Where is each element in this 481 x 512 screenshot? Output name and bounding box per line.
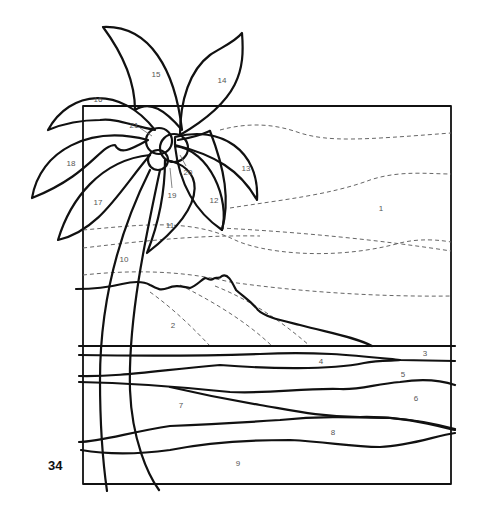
pattern-drawing	[0, 0, 481, 512]
piece-label-6: 6	[414, 394, 418, 403]
mountain-outline	[76, 275, 372, 346]
piece-label-2: 2	[171, 321, 175, 330]
piece-label-21: 21	[130, 121, 139, 130]
piece-label-5: 5	[401, 370, 405, 379]
piece-label-18: 18	[67, 159, 76, 168]
pattern-canvas: 123456789101112131415161718192021 34	[0, 0, 481, 512]
piece-label-19: 19	[168, 191, 177, 200]
piece-label-17: 17	[94, 198, 103, 207]
page-number: 34	[48, 458, 62, 473]
sea-line-3	[79, 380, 455, 392]
frond-18	[32, 136, 148, 198]
piece-label-14: 14	[218, 76, 227, 85]
piece-label-13: 13	[242, 164, 251, 173]
frond-14	[180, 33, 243, 135]
frame-border	[83, 106, 451, 484]
piece-label-1: 1	[379, 204, 383, 213]
piece-label-12: 12	[210, 196, 219, 205]
frond-15	[103, 27, 182, 130]
sea-line-2	[79, 360, 400, 376]
piece-label-16: 16	[94, 95, 103, 104]
piece-label-15: 15	[152, 70, 161, 79]
palm-trunk-right	[130, 170, 160, 490]
piece-label-7: 7	[179, 401, 183, 410]
sky-dashed-lines	[83, 125, 451, 346]
piece-label-9: 9	[236, 459, 240, 468]
piece-label-11: 11	[166, 221, 174, 230]
piece-label-4: 4	[319, 357, 323, 366]
piece-label-20: 20	[184, 168, 193, 177]
piece-label-8: 8	[331, 428, 335, 437]
piece-label-3: 3	[423, 349, 427, 358]
piece-label-10: 10	[120, 255, 129, 264]
palm-trunk-left	[100, 170, 150, 491]
